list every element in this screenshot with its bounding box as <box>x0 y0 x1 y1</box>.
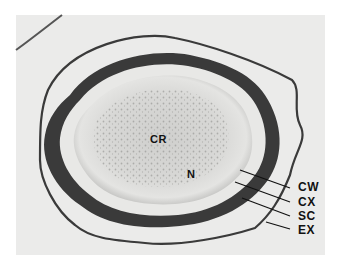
micrograph-figure: CR N CW CX SC EX <box>0 0 338 266</box>
label-sc: SC <box>298 210 316 222</box>
label-n: N <box>187 169 195 180</box>
micrograph-illustration <box>0 0 338 266</box>
pointer-ex <box>266 222 290 229</box>
label-cr: CR <box>150 134 167 145</box>
stray-membrane <box>16 15 62 50</box>
label-ex: EX <box>298 224 315 236</box>
label-cx: CX <box>298 196 316 208</box>
label-cw: CW <box>298 181 319 193</box>
pointer-sc <box>242 198 290 216</box>
